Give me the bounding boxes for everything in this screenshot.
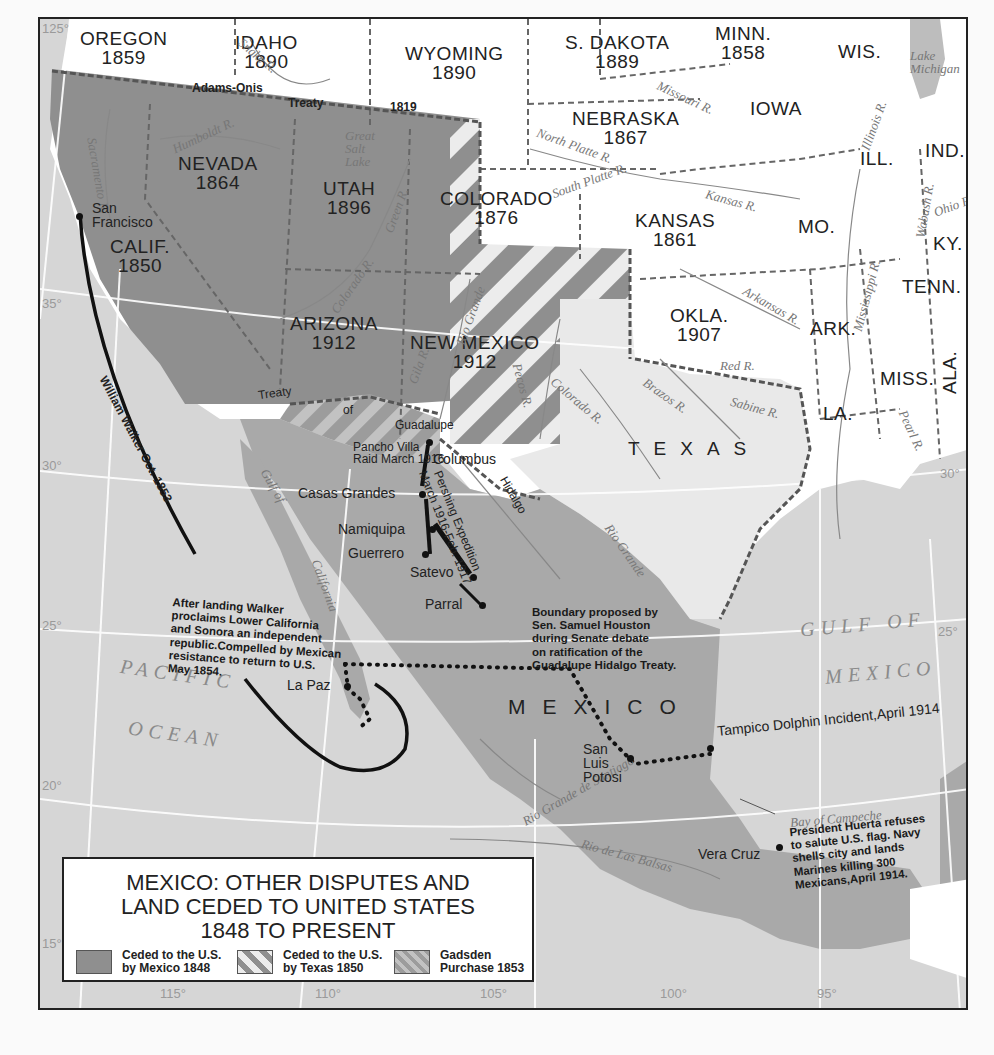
vera-cruz-marker bbox=[776, 844, 783, 851]
legend-item-ceded-mexico-1848: Ceded to the U.S.by Mexico 1848 bbox=[76, 949, 221, 975]
san-luis-potosi-marker bbox=[627, 755, 634, 762]
latitude-label-30-east: 30° bbox=[940, 467, 960, 480]
latitude-label-30: 30° bbox=[42, 459, 62, 472]
longitude-label-100: 100° bbox=[660, 987, 687, 1000]
state-label-tennessee: TENN. bbox=[902, 277, 962, 296]
san-luis-potosi-label: SanLuisPotosi bbox=[583, 742, 622, 784]
la-paz-marker bbox=[344, 683, 351, 690]
treaty-year-label: 1819 bbox=[390, 101, 417, 113]
state-label-mississippi: MISS. bbox=[880, 369, 934, 388]
state-label-wyoming: WYOMING1890 bbox=[405, 44, 504, 82]
latitude-label-15: 15° bbox=[42, 937, 62, 950]
latitude-label-25-east: 25° bbox=[938, 625, 958, 638]
state-label-south-dakota: S. DAKOTA1889 bbox=[565, 33, 669, 71]
state-label-indiana: IND. bbox=[925, 141, 965, 160]
latitude-label-35: 35° bbox=[42, 297, 62, 310]
parral-label: Parral bbox=[425, 597, 462, 611]
namiquipa-label: Namiquipa bbox=[338, 522, 405, 536]
latitude-label-20: 20° bbox=[42, 779, 62, 792]
striped-swatch-icon bbox=[237, 950, 273, 974]
state-label-iowa: IOWA bbox=[750, 99, 802, 118]
great-salt-lake-label: GreatSaltLake bbox=[345, 129, 375, 168]
namiquipa-marker bbox=[429, 526, 436, 533]
map-title: MEXICO: OTHER DISPUTES AND LAND CEDED TO… bbox=[64, 871, 532, 943]
longitude-label-125: 125° bbox=[42, 22, 69, 35]
tampico-marker bbox=[707, 745, 714, 752]
country-label-mexico: MEXICO bbox=[508, 696, 693, 717]
san-francisco-marker bbox=[76, 213, 83, 220]
longitude-label-95: 95° bbox=[817, 987, 837, 1000]
houston-boundary-note: Boundary proposed by Sen. Samuel Houston… bbox=[532, 606, 676, 672]
longitude-label-115: 115° bbox=[160, 987, 186, 1000]
latitude-label-25: 25° bbox=[42, 619, 62, 632]
vera-cruz-label: Vera Cruz bbox=[698, 847, 760, 861]
state-label-louisiana: LA. bbox=[823, 404, 853, 423]
huerta-note: President Huerta refuses to salute U.S. … bbox=[789, 812, 931, 892]
state-label-nebraska: NEBRASKA1867 bbox=[572, 109, 679, 147]
dense-striped-swatch-icon bbox=[394, 950, 430, 974]
river-label-red: Red R. bbox=[720, 359, 755, 372]
villa-raid-label: Pancho VillaRaid March 1916 bbox=[353, 441, 444, 465]
state-label-wisconsin: WIS. bbox=[838, 42, 881, 61]
state-label-oklahoma: OKLA.1907 bbox=[670, 306, 728, 344]
state-label-nevada: NEVADA1864 bbox=[178, 154, 258, 192]
legend-item-gadsden-purchase-1853: GadsdenPurchase 1853 bbox=[394, 949, 524, 975]
state-label-illinois: ILL. bbox=[860, 149, 894, 168]
longitude-label-105: 105° bbox=[480, 987, 507, 1000]
longitude-label-110: 110° bbox=[315, 987, 341, 1000]
state-label-colorado: COLORADO1876 bbox=[440, 189, 553, 227]
legend-item-ceded-texas-1850: Ceded to the U.S.by Texas 1850 bbox=[237, 949, 382, 975]
casas-grandes-label: Casas Grandes bbox=[298, 486, 395, 500]
state-label-california: CALIF.1850 bbox=[110, 237, 170, 275]
treaty-label: Treaty bbox=[288, 97, 323, 109]
gh-guadalupe-label: Guadalupe bbox=[395, 419, 454, 431]
walker-note: After landing Walker proclaims Lower Cal… bbox=[167, 596, 344, 687]
state-label-kansas: KANSAS1861 bbox=[635, 211, 715, 249]
state-label-missouri: MO. bbox=[798, 217, 835, 236]
map-legend: MEXICO: OTHER DISPUTES AND LAND CEDED TO… bbox=[62, 857, 534, 982]
san-francisco-label: SanFrancisco bbox=[92, 201, 153, 229]
state-label-utah: UTAH1896 bbox=[323, 179, 375, 217]
state-label-minnesota: MINN.1858 bbox=[715, 24, 771, 62]
gh-of-label: of bbox=[343, 404, 353, 416]
state-label-texas: TEXAS bbox=[628, 439, 760, 458]
guerrero-label: Guerrero bbox=[348, 546, 404, 560]
parral-marker bbox=[479, 602, 486, 609]
satevo-label: Satevo bbox=[410, 565, 454, 579]
guerrero-marker bbox=[422, 551, 429, 558]
solid-swatch-icon bbox=[76, 950, 112, 974]
state-label-oregon: OREGON1859 bbox=[80, 29, 167, 67]
state-label-kentucky: KY. bbox=[933, 234, 963, 253]
adams-onis-label: Adams-Onis bbox=[192, 82, 263, 94]
lake-michigan-label: LakeMichigan bbox=[910, 49, 960, 75]
state-label-arizona: ARIZONA1912 bbox=[290, 314, 378, 352]
state-label-alabama: ALA. bbox=[940, 351, 959, 394]
